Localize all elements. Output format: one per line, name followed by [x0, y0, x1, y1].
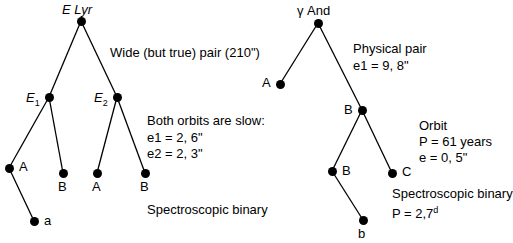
node-gand-b-spectroscopic[interactable] [359, 216, 368, 225]
period-value: P = 2,7 [392, 206, 433, 221]
node-elyr-e2-b[interactable] [141, 169, 150, 178]
edge-elyr-e2-to-elyr-e2-b [117, 97, 145, 173]
annotation-spectroscopic-period: P = 2,7d [392, 202, 438, 222]
node-label-gand-a: A [262, 76, 271, 89]
annotation-orbit-period: P = 61 years [419, 134, 492, 150]
node-label-elyr-root: E Lyr [62, 3, 92, 16]
node-label-gand-c: C [402, 165, 411, 178]
edge-gand-b2-to-gand-b-sb [332, 171, 363, 220]
subscript-2: 2 [103, 98, 108, 108]
edge-gand-root-to-gand-a [280, 23, 318, 84]
annotation-physical-pair: Physical pair [353, 41, 427, 57]
edge-gand-b-to-gand-b2 [332, 110, 362, 171]
edge-gand-b-to-gand-c [362, 110, 392, 173]
subscript-1: 1 [35, 98, 40, 108]
annotation-both-orbits-slow: Both orbits are slow: [147, 113, 265, 129]
annotation-wide-pair: Wide (but true) pair (210") [110, 45, 260, 61]
node-elyr-e2-a[interactable] [93, 169, 102, 178]
annotation-eccentricity-e2: e2 = 2, 3" [147, 146, 203, 162]
node-label-elyr-e1-a: A [19, 160, 28, 173]
annotation-spectroscopic-binary-left: Spectroscopic binary [147, 202, 268, 218]
node-gand-a[interactable] [276, 80, 285, 89]
node-label-gand-root: γ And [297, 4, 330, 17]
node-elyr-e1-b[interactable] [59, 169, 68, 178]
node-label-gand-b-spectroscopic: b [358, 227, 365, 240]
annotation-eccentricity-e1: e1 = 2, 6" [147, 130, 203, 146]
node-label-elyr-e1-b: B [58, 180, 67, 193]
node-gand-b2[interactable] [328, 167, 337, 176]
node-gand-root[interactable] [314, 19, 323, 28]
period-unit-days: d [433, 205, 438, 215]
edge-elyr-root-to-elyr-e1 [49, 21, 81, 97]
node-label-elyr-e2-a: A [92, 180, 101, 193]
node-label-gand-b: B [344, 103, 353, 116]
node-elyr-e1-a[interactable] [5, 164, 14, 173]
node-gand-b[interactable] [358, 106, 367, 115]
annotation-orbit-title: Orbit [419, 118, 447, 134]
star-system-diagram: E Lyr E1 E2 A B A B a Wide (but true) pa… [0, 0, 513, 243]
node-elyr-root[interactable] [77, 17, 86, 26]
node-label-elyr-e2-b: B [140, 180, 149, 193]
node-elyr-e2[interactable] [113, 93, 122, 102]
node-label-gand-b2: B [342, 164, 351, 177]
epsilon-glyph: E [62, 2, 71, 17]
annotation-physical-pair-e1: e1 = 9, 8" [353, 58, 409, 74]
annotation-spectroscopic-binary-right: Spectroscopic binary [392, 186, 513, 202]
edge-elyr-e1-a-to-elyr-a-sb [9, 168, 34, 221]
node-label-elyr-e1: E1 [26, 91, 40, 110]
node-label-elyr-e2: E2 [94, 91, 108, 110]
node-gand-c[interactable] [388, 169, 397, 178]
node-elyr-a-spectroscopic[interactable] [30, 217, 39, 226]
edge-elyr-e1-to-elyr-e1-b [49, 97, 63, 173]
annotation-orbit-eccentricity: e = 0, 5" [419, 150, 467, 166]
node-elyr-e1[interactable] [45, 93, 54, 102]
node-label-elyr-a-spectroscopic: a [44, 214, 51, 227]
